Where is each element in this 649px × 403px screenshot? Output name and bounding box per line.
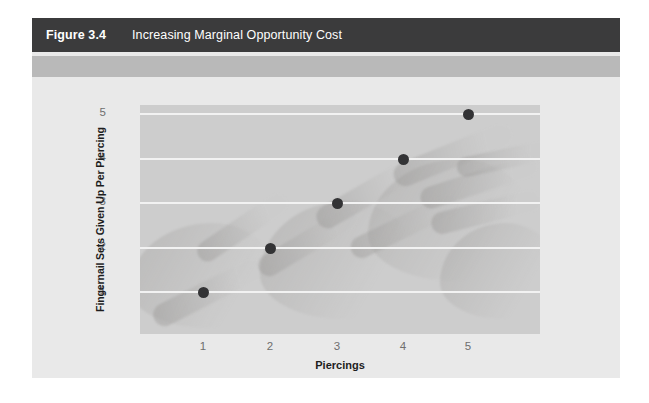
gridline bbox=[140, 158, 540, 160]
data-point[interactable] bbox=[265, 243, 276, 254]
chart-area: 5 4 3 2 1 1 2 3 4 5 Fingernail Sets Give… bbox=[32, 81, 620, 378]
data-point[interactable] bbox=[198, 287, 209, 298]
data-point[interactable] bbox=[332, 198, 343, 209]
x-tick-label: 4 bbox=[388, 340, 418, 352]
data-point[interactable] bbox=[398, 154, 409, 165]
x-tick-label: 1 bbox=[188, 340, 218, 352]
figure-number-label: Figure 3.4 bbox=[46, 28, 106, 42]
x-tick-label: 2 bbox=[255, 340, 285, 352]
gray-divider-band bbox=[32, 56, 620, 77]
x-tick-label: 5 bbox=[453, 340, 483, 352]
gridline bbox=[140, 113, 540, 115]
x-tick-label: 3 bbox=[322, 340, 352, 352]
data-point[interactable] bbox=[463, 109, 474, 120]
figure-title-bar: Figure 3.4 Increasing Marginal Opportuni… bbox=[32, 18, 620, 52]
y-axis-label: Fingernail Sets Given Up Per Piercing bbox=[94, 105, 110, 334]
x-axis-label: Piercings bbox=[140, 359, 540, 371]
plot-area bbox=[140, 105, 540, 334]
gridline bbox=[140, 247, 540, 249]
figure-title-text: Increasing Marginal Opportunity Cost bbox=[132, 28, 342, 42]
figure-container: Figure 3.4 Increasing Marginal Opportuni… bbox=[32, 18, 620, 378]
